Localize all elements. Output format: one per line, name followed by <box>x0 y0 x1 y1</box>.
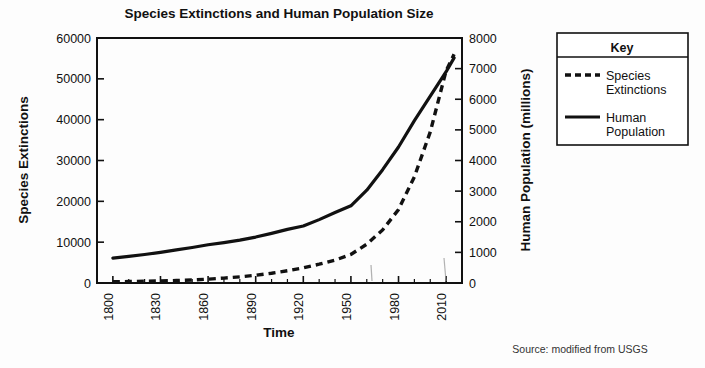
y-tick-label-right: 8000 <box>469 32 497 46</box>
y-tick-label-left: 20000 <box>56 195 91 209</box>
legend-label: Extinctions <box>606 83 666 97</box>
x-tick-label: 1920 <box>292 293 306 321</box>
x-tick-label: 1830 <box>149 293 163 321</box>
y-tick-label-right: 7000 <box>469 62 497 76</box>
chart-legend: Key SpeciesExtinctionsHumanPopulation <box>557 33 688 145</box>
y-tick-label-right: 1000 <box>469 246 497 260</box>
x-tick-label: 2010 <box>435 293 449 321</box>
y-tick-label-right: 0 <box>469 277 476 291</box>
y-axis-right-title: Human Population (millions) <box>518 69 533 252</box>
legend-label: Human <box>606 111 646 125</box>
y-tick-label-right: 2000 <box>469 215 497 229</box>
y-axis-right-tick-labels: 010002000300040005000600070008000 <box>469 32 497 291</box>
y-tick-label-right: 4000 <box>469 154 497 168</box>
x-tick-label: 1860 <box>197 293 211 321</box>
x-axis-title: Time <box>263 325 295 340</box>
y-tick-label-left: 30000 <box>56 154 91 168</box>
legend-title: Key <box>611 41 634 55</box>
chart-title: Species Extinctions and Human Population… <box>124 6 434 21</box>
y-tick-label-right: 6000 <box>469 93 497 107</box>
y-tick-label-left: 40000 <box>56 113 91 127</box>
y-tick-label-right: 5000 <box>469 123 497 137</box>
legend-label: Population <box>606 125 665 139</box>
x-tick-label: 1950 <box>340 293 354 321</box>
y-tick-label-left: 10000 <box>56 236 91 250</box>
y-tick-label-left: 0 <box>84 277 91 291</box>
y-axis-left-title: Species Extinctions <box>16 96 31 224</box>
y-tick-label-right: 3000 <box>469 185 497 199</box>
y-tick-label-left: 50000 <box>56 72 91 86</box>
x-tick-label: 1890 <box>245 293 259 321</box>
x-tick-label: 1980 <box>388 293 402 321</box>
y-tick-label-left: 60000 <box>56 32 91 46</box>
x-tick-label: 1800 <box>102 293 116 321</box>
chart-figure: Species Extinctions and Human Population… <box>0 0 705 368</box>
legend-label: Species <box>606 69 650 83</box>
source-note: Source: modified from USGS <box>512 343 647 355</box>
